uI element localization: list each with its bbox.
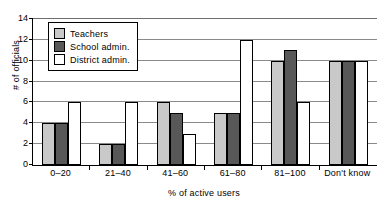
- bar: [42, 123, 55, 165]
- bar: [170, 113, 183, 165]
- bar: [55, 123, 68, 165]
- bar-chart: # of officials 0–2021–4041–6061–8081–100…: [0, 0, 381, 207]
- y-tick-label: 0: [4, 159, 28, 169]
- bar-group: [205, 19, 262, 165]
- bar: [125, 102, 138, 165]
- y-tick-label: 6: [4, 96, 28, 106]
- bar: [227, 113, 240, 165]
- x-tick-label: 21–40: [89, 168, 146, 178]
- y-tick-label: 8: [4, 76, 28, 86]
- x-tick-label: 61–80: [204, 168, 261, 178]
- bar: [297, 102, 310, 165]
- legend-label: Teachers: [70, 29, 108, 39]
- x-tick-label: 0–20: [32, 168, 89, 178]
- bar: [183, 134, 196, 165]
- bar-group: [148, 19, 205, 165]
- legend-item: District admin.: [54, 53, 130, 66]
- bar: [355, 61, 368, 165]
- y-tick-label: 12: [4, 34, 28, 44]
- bar: [240, 40, 253, 165]
- bar: [157, 102, 170, 165]
- y-tick-label: 2: [4, 138, 28, 148]
- bar: [329, 61, 342, 165]
- bar-group: [320, 19, 377, 165]
- x-axis-tick-labels: 0–2021–4041–6061–8081–100Don't know: [32, 168, 376, 178]
- legend-label: School admin.: [70, 42, 130, 52]
- y-tick-label: 14: [4, 13, 28, 23]
- y-tick-label: 4: [4, 117, 28, 127]
- bar: [271, 61, 284, 165]
- bar: [112, 144, 125, 165]
- legend-swatch-icon: [54, 54, 65, 65]
- legend-swatch-icon: [54, 28, 65, 39]
- legend: TeachersSchool admin.District admin.: [48, 22, 138, 71]
- bar: [284, 50, 297, 165]
- x-axis-title: % of active users: [30, 188, 378, 198]
- legend-swatch-icon: [54, 41, 65, 52]
- bar-group: [262, 19, 319, 165]
- legend-label: District admin.: [70, 55, 130, 65]
- legend-item: Teachers: [54, 27, 130, 40]
- legend-item: School admin.: [54, 40, 130, 53]
- y-tick-label: 10: [4, 55, 28, 65]
- bar: [99, 144, 112, 165]
- x-tick-label: Don't know: [319, 168, 376, 178]
- bar: [68, 102, 81, 165]
- x-tick-label: 41–60: [147, 168, 204, 178]
- bar: [342, 61, 355, 165]
- x-tick-label: 81–100: [261, 168, 318, 178]
- bar: [214, 113, 227, 165]
